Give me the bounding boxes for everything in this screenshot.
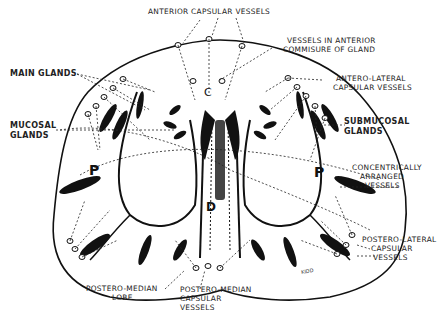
label-commisure-2: COMMISURE OF GLAND — [283, 46, 375, 55]
letter-duct: D — [206, 200, 216, 214]
label-mucosal-2: GLANDS — [10, 131, 49, 141]
label-antero-lateral-2: CAPSULAR VESSELS — [333, 84, 412, 93]
label-mucosal-1: MUCOSAL — [10, 121, 56, 131]
label-postero-median-vessels-3: VESSELS — [180, 304, 215, 313]
label-submucosal-2: GLANDS — [344, 127, 383, 137]
label-anterior-capsular: ANTERIOR CAPSULAR VESSELS — [148, 8, 270, 17]
letter-center: C — [204, 86, 212, 99]
label-postero-median-lobe-2: LOBE — [112, 294, 133, 303]
right-lobe-outline — [244, 92, 321, 226]
label-concentric-3: VESSELS — [365, 182, 400, 191]
letter-right-lobe: P — [314, 164, 324, 180]
label-main-glands: MAIN GLANDS — [10, 69, 77, 79]
label-postero-lateral-3: VESSELS — [373, 254, 408, 263]
label-submucosal-1: SUBMUCOSAL — [344, 117, 410, 127]
letter-left-lobe: P — [89, 162, 99, 178]
left-lobe-outline — [119, 92, 196, 226]
vessel-paths — [56, 18, 400, 289]
